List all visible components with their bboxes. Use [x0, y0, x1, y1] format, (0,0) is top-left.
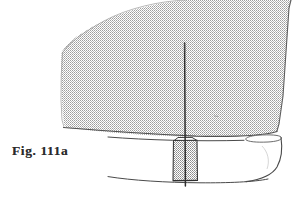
deck-edge-ellipse [246, 135, 282, 142]
mast-line [185, 43, 186, 186]
mast [185, 43, 186, 186]
figure-container: Fig. 111a [0, 0, 299, 198]
sail-fill [61, 0, 291, 137]
mainsail [61, 0, 291, 137]
figure-caption: Fig. 111a [12, 144, 68, 158]
sailboat-figure-illustration [0, 0, 299, 198]
